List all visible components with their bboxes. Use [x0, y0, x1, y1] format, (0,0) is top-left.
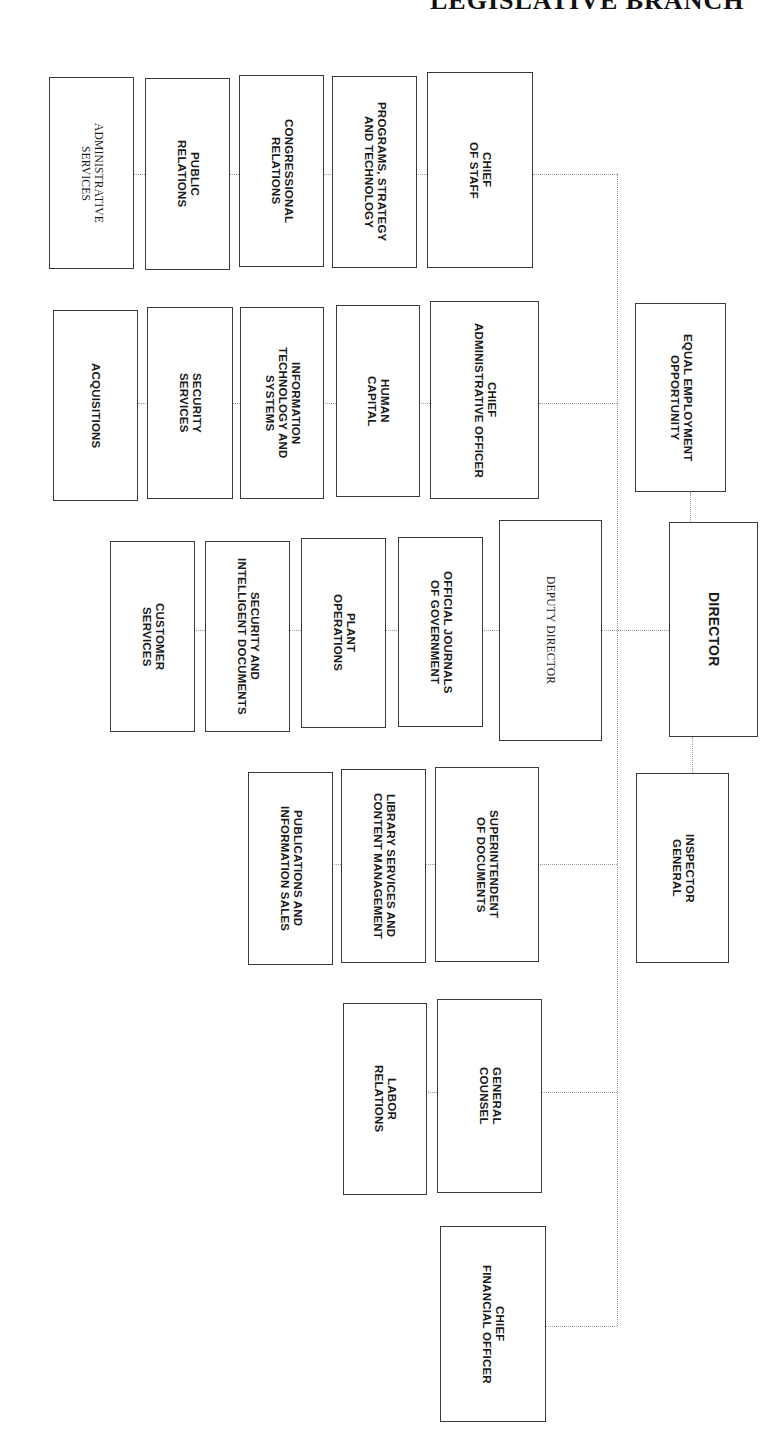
box-general-counsel[interactable]: GENERAL COUNSEL	[437, 999, 542, 1193]
box-public-relations[interactable]: PUBLIC RELATIONS	[145, 78, 230, 270]
label-public-relations: PUBLIC RELATIONS	[175, 140, 201, 207]
box-security-services[interactable]: SECURITY SERVICES	[147, 307, 233, 499]
label-human-capital: HUMAN CAPITAL	[365, 376, 391, 426]
box-equal-employment-opportunity[interactable]: EQUAL EMPLOYMENT OPPORTUNITY	[635, 303, 726, 492]
box-superintendent-of-documents[interactable]: SUPERINTENDENT OF DOCUMENTS	[435, 767, 539, 962]
box-programs-strategy-technology[interactable]: PROGRAMS, STRATEGY AND TECHNOLOGY	[332, 76, 417, 268]
box-information-technology-systems[interactable]: INFORMATION TECHNOLOGY AND SYSTEMS	[240, 307, 324, 499]
box-human-capital[interactable]: HUMAN CAPITAL	[336, 305, 420, 497]
box-acquisitions[interactable]: ACQUISITIONS	[53, 310, 138, 501]
label-general-counsel: GENERAL COUNSEL	[477, 1067, 503, 1125]
main-trunk-line	[617, 174, 618, 1326]
label-programs-strategy-technology: PROGRAMS, STRATEGY AND TECHNOLOGY	[362, 102, 388, 241]
label-administrative-services: ADMINISTRATIVE SERVICES	[79, 123, 105, 223]
connector-general-counsel	[542, 1092, 617, 1093]
box-security-intelligent-documents[interactable]: SECURITY AND INTELLIGENT DOCUMENTS	[205, 541, 290, 732]
box-director[interactable]: DIRECTOR	[669, 522, 758, 737]
label-customer-services: CUSTOMER SERVICES	[140, 603, 166, 670]
connector-director-ig	[692, 737, 693, 773]
label-information-technology-systems: INFORMATION TECHNOLOGY AND SYSTEMS	[263, 347, 302, 458]
connector-cao	[539, 403, 617, 404]
label-director: DIRECTOR	[706, 592, 722, 666]
label-chief-financial-officer: CHIEF FINANCIAL OFFICER	[480, 1265, 506, 1384]
label-eeo: EQUAL EMPLOYMENT OPPORTUNITY	[668, 334, 694, 462]
page-header-title: LEGISLATIVE BRANCH	[430, 0, 781, 10]
box-deputy-director[interactable]: DEPUTY DIRECTOR	[499, 520, 602, 741]
box-administrative-services[interactable]: ADMINISTRATIVE SERVICES	[49, 77, 134, 269]
label-library-services: LIBRARY SERVICES AND CONTENT MANAGEMENT	[371, 793, 397, 939]
box-chief-of-staff[interactable]: CHIEF OF STAFF	[427, 72, 533, 268]
box-chief-administrative-officer[interactable]: CHIEF ADMINISTRATIVE OFFICER	[430, 301, 539, 499]
row-line-gc	[426, 1092, 437, 1093]
label-security-intelligent-documents: SECURITY AND INTELLIGENT DOCUMENTS	[235, 558, 261, 715]
box-library-services[interactable]: LIBRARY SERVICES AND CONTENT MANAGEMENT	[341, 769, 426, 963]
label-security-services: SECURITY SERVICES	[177, 373, 203, 433]
label-inspector-general: INSPECTOR GENERAL	[670, 834, 696, 903]
label-publications-information-sales: PUBLICATIONS AND INFORMATION SALES	[278, 806, 304, 931]
connector-chief-of-staff	[533, 174, 617, 175]
connector-cfo	[546, 1326, 617, 1327]
label-chief-administrative-officer: CHIEF ADMINISTRATIVE OFFICER	[472, 323, 498, 478]
label-labor-relations: LABOR RELATIONS	[372, 1065, 398, 1132]
label-chief-of-staff: CHIEF OF STAFF	[467, 142, 493, 199]
box-customer-services[interactable]: CUSTOMER SERVICES	[110, 541, 195, 732]
connector-eeo-director	[690, 492, 691, 522]
connector-deputy	[602, 630, 669, 631]
label-congressional-relations: CONGRESSIONAL RELATIONS	[269, 119, 295, 223]
label-deputy-director: DEPUTY DIRECTOR	[544, 576, 557, 684]
box-congressional-relations[interactable]: CONGRESSIONAL RELATIONS	[239, 75, 324, 267]
box-labor-relations[interactable]: LABOR RELATIONS	[343, 1003, 427, 1195]
label-plant-operations: PLANT OPERATIONS	[331, 594, 357, 671]
box-inspector-general[interactable]: INSPECTOR GENERAL	[636, 773, 729, 963]
box-publications-information-sales[interactable]: PUBLICATIONS AND INFORMATION SALES	[248, 772, 333, 965]
box-plant-operations[interactable]: PLANT OPERATIONS	[301, 538, 386, 728]
label-acquisitions: ACQUISITIONS	[89, 363, 102, 448]
box-chief-financial-officer[interactable]: CHIEF FINANCIAL OFFICER	[440, 1226, 546, 1422]
box-official-journals[interactable]: OFFICIAL JOURNALS OF GOVERNMENT	[398, 537, 483, 727]
label-official-journals: OFFICIAL JOURNALS OF GOVERNMENT	[428, 571, 454, 694]
label-superintendent-of-documents: SUPERINTENDENT OF DOCUMENTS	[474, 810, 500, 918]
